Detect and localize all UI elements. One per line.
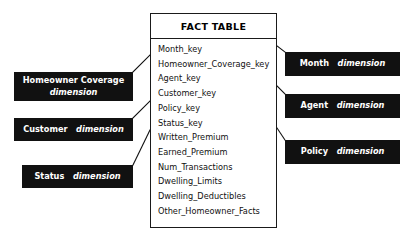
dimension-suffix-customer: dimension	[76, 124, 124, 134]
fact-table: FACT TABLE Month_key Homeowner_Coverage_…	[150, 13, 277, 228]
dimension-name-policy: Policy	[301, 146, 328, 156]
fact-field-dwelling-deductibles: Dwelling_Deductibles	[158, 189, 276, 204]
connector-status	[133, 130, 150, 165]
fact-field-status-key: Status_key	[158, 116, 276, 131]
dimension-box-status: Status dimension	[22, 165, 133, 188]
dimension-name-agent: Agent	[301, 100, 329, 110]
dimension-suffix-status: dimension	[73, 171, 121, 181]
fact-field-customer-key: Customer_key	[158, 86, 276, 101]
connector-month	[277, 46, 285, 52]
dimension-name-customer: Customer	[23, 124, 67, 134]
fact-field-agent-key: Agent_key	[158, 71, 276, 86]
connector-agent	[277, 86, 285, 94]
diagram-canvas: FACT TABLE Month_key Homeowner_Coverage_…	[0, 0, 409, 240]
dimension-box-policy: Policy dimension	[285, 140, 400, 164]
connector-customer	[133, 101, 150, 118]
fact-field-earned-premium: Earned_Premium	[158, 145, 276, 160]
dimension-suffix-month: dimension	[338, 58, 386, 68]
dimension-box-customer: Customer dimension	[14, 118, 133, 141]
connector-policy	[277, 128, 285, 140]
fact-field-other-homeowner-facts: Other_Homeowner_Facts	[158, 204, 276, 219]
dimension-name-month: Month	[300, 58, 329, 68]
dimension-box-homeowner-coverage: Homeowner Coverage dimension	[14, 72, 133, 101]
fact-field-policy-key: Policy_key	[158, 101, 276, 116]
connector-homeowner-coverage	[133, 55, 150, 72]
dimension-suffix-agent: dimension	[337, 100, 385, 110]
dimension-box-agent: Agent dimension	[285, 94, 400, 118]
dimension-suffix-homeowner-coverage: dimension	[50, 87, 98, 97]
dimension-name-homeowner-coverage: Homeowner Coverage	[23, 75, 125, 85]
fact-field-month-key: Month_key	[158, 42, 276, 57]
dimension-name-status: Status	[34, 171, 64, 181]
dimension-suffix-policy: dimension	[337, 146, 385, 156]
fact-field-homeowner-coverage-key: Homeowner_Coverage_key	[158, 57, 276, 72]
fact-field-dwelling-limits: Dwelling_Limits	[158, 174, 276, 189]
fact-table-header: FACT TABLE	[151, 14, 276, 39]
fact-field-num-transactions: Num_Transactions	[158, 160, 276, 175]
fact-field-written-premium: Written_Premium	[158, 130, 276, 145]
fact-table-field-list: Month_key Homeowner_Coverage_key Agent_k…	[151, 39, 276, 218]
dimension-box-month: Month dimension	[285, 52, 400, 76]
